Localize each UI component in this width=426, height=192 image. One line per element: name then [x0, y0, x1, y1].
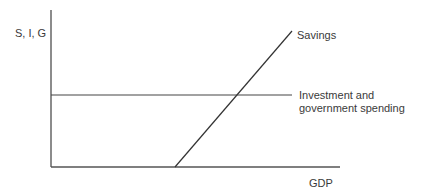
savings-label: Savings	[297, 29, 336, 41]
x-axis-label: GDP	[309, 177, 333, 189]
investment-label-line1: Investment and	[299, 89, 374, 101]
investment-label-line2: government spending	[299, 102, 405, 114]
savings-line	[175, 31, 292, 167]
y-axis-label: S, I, G	[15, 27, 46, 39]
